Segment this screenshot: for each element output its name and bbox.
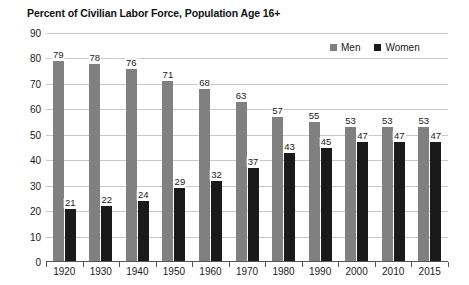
bar-women-1920: [65, 209, 76, 262]
y-axis-tick-label: 40: [1, 155, 41, 166]
x-axis-tick-mark: [192, 262, 193, 267]
x-axis-tick-mark: [265, 262, 266, 267]
x-axis-tick-label: 1980: [272, 266, 294, 277]
bar-men-1950: [162, 81, 173, 262]
y-axis-tick-label: 70: [1, 78, 41, 89]
bar-value-label: 32: [210, 170, 223, 180]
x-axis-tick-label: 1950: [163, 266, 185, 277]
bar-value-label: 71: [162, 70, 175, 80]
bar-men-2015: [418, 127, 429, 262]
bar-women-1950: [174, 188, 185, 262]
bar-women-2015: [430, 142, 441, 262]
bar-value-label: 37: [247, 157, 260, 167]
x-axis-line: [46, 261, 448, 262]
plot-area: 7921782276247129683263375743554553475347…: [46, 33, 448, 262]
x-axis-tick-label: 1940: [126, 266, 148, 277]
bar-value-label: 57: [271, 106, 284, 116]
x-axis-tick-mark: [411, 262, 412, 267]
x-axis-tick-label: 2015: [419, 266, 441, 277]
bar-women-1960: [211, 181, 222, 262]
bar-men-1990: [309, 122, 320, 262]
bar-men-2010: [382, 127, 393, 262]
y-axis-tick-label: 60: [1, 104, 41, 115]
bar-women-2000: [357, 142, 368, 262]
x-axis-tick-mark: [119, 262, 120, 267]
x-axis-tick-mark: [338, 262, 339, 267]
x-axis-tick-label: 1960: [199, 266, 221, 277]
y-axis-tick-label: 90: [1, 28, 41, 39]
x-axis-tick-mark: [156, 262, 157, 267]
gridline: [46, 84, 448, 85]
bar-women-1940: [138, 201, 149, 262]
x-axis-tick-label: 1990: [309, 266, 331, 277]
bar-value-label: 79: [52, 50, 65, 60]
x-axis-tick-mark: [83, 262, 84, 267]
x-axis-tick-mark: [229, 262, 230, 267]
x-axis-tick-label: 2000: [346, 266, 368, 277]
bar-women-1970: [248, 168, 259, 262]
bar-men-1940: [126, 69, 137, 262]
x-axis-tick-label: 2010: [382, 266, 404, 277]
bar-value-label: 53: [381, 116, 394, 126]
bar-value-label: 47: [429, 131, 442, 141]
bar-value-label: 76: [125, 58, 138, 68]
bar-women-2010: [394, 142, 405, 262]
bar-value-label: 47: [393, 131, 406, 141]
gridline: [46, 58, 448, 59]
y-axis-labels: 0102030405060708090: [0, 33, 41, 262]
bar-value-label: 47: [356, 131, 369, 141]
x-axis-tick-label: 1970: [236, 266, 258, 277]
bar-value-label: 55: [308, 111, 321, 121]
x-axis-tick-label: 1920: [53, 266, 75, 277]
bar-value-label: 21: [64, 198, 77, 208]
bar-chart: Percent of Civilian Labor Force, Populat…: [0, 0, 469, 285]
gridline: [46, 262, 448, 263]
x-axis-tick-label: 1930: [90, 266, 112, 277]
y-axis-tick-label: 80: [1, 53, 41, 64]
bar-value-label: 78: [89, 53, 102, 63]
bar-women-1980: [284, 153, 295, 262]
bar-value-label: 63: [235, 91, 248, 101]
bar-value-label: 68: [198, 78, 211, 88]
x-axis-labels: 1920193019401950196019701980199020002010…: [46, 266, 448, 282]
bar-men-1980: [272, 117, 283, 262]
bar-men-1960: [199, 89, 210, 262]
chart-title: Percent of Civilian Labor Force, Populat…: [27, 7, 280, 19]
y-axis-tick-label: 30: [1, 180, 41, 191]
x-axis-tick-mark: [448, 262, 449, 267]
bar-men-1930: [89, 64, 100, 262]
x-axis-tick-mark: [46, 262, 47, 267]
gridline: [46, 109, 448, 110]
bar-value-label: 24: [137, 190, 150, 200]
bar-value-label: 53: [344, 116, 357, 126]
bar-value-label: 45: [320, 137, 333, 147]
y-axis-tick-label: 0: [1, 257, 41, 268]
y-axis-tick-label: 20: [1, 206, 41, 217]
bar-value-label: 29: [174, 177, 187, 187]
bar-women-1930: [101, 206, 112, 262]
y-axis-tick-label: 50: [1, 129, 41, 140]
y-axis-tick-label: 10: [1, 231, 41, 242]
bar-value-label: 53: [417, 116, 430, 126]
bar-women-1990: [321, 148, 332, 263]
x-axis-tick-mark: [375, 262, 376, 267]
bar-value-label: 43: [283, 142, 296, 152]
gridline: [46, 33, 448, 34]
bar-value-label: 22: [101, 195, 114, 205]
bar-men-1970: [236, 102, 247, 262]
x-axis-tick-mark: [302, 262, 303, 267]
bar-men-1920: [53, 61, 64, 262]
bar-men-2000: [345, 127, 356, 262]
